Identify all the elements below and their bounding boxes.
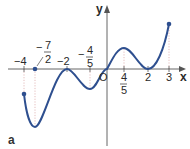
tick-label-neg4: −4 — [14, 55, 27, 67]
panel-label: a — [8, 133, 15, 147]
tick-label-neg4-5-den: 5 — [87, 57, 93, 69]
tick-label-neg4-5-num: 4 — [87, 44, 93, 56]
tick-label-pos4-5-num: 4 — [121, 71, 127, 83]
tick-label-neg4-5-minus: − — [78, 48, 84, 60]
tick-label-pos3: 3 — [166, 71, 172, 83]
y-axis-label: y — [96, 2, 103, 16]
x-axis-label: x — [180, 70, 187, 84]
neg-seven-halves-dot — [33, 67, 38, 72]
tick-label-neg7-2-minus: − — [36, 41, 42, 53]
tick-label-pos4-5-den: 5 — [121, 84, 127, 96]
start-point-dot — [22, 92, 27, 97]
origin-label: O — [99, 71, 108, 83]
end-point-dot — [167, 22, 172, 27]
leader-line — [37, 57, 43, 66]
function-graph: y x O −4 − 7 2 −2 − 4 5 4 5 2 3 a — [0, 0, 190, 149]
tick-label-neg7-2-den: 2 — [45, 53, 51, 65]
tick-label-neg7-2-num: 7 — [45, 39, 51, 51]
tick-label-pos2: 2 — [145, 71, 151, 83]
y-axis-arrow-icon — [104, 5, 110, 13]
tick-label-neg2: −2 — [57, 55, 70, 67]
